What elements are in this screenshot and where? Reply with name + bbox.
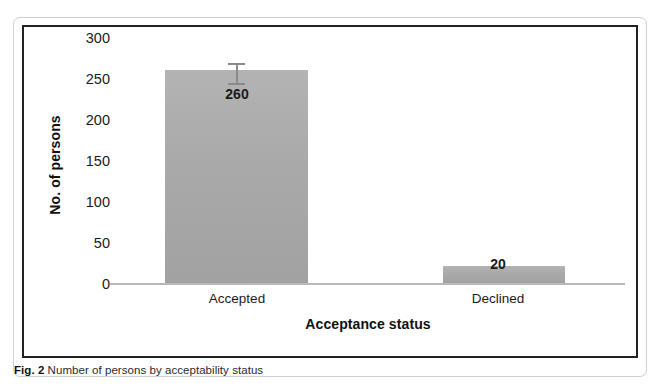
figure-caption: Fig. 2 Number of persons by acceptabilit… [14, 364, 263, 376]
figure-caption-label: Fig. 2 [14, 364, 44, 376]
chart-inner-frame [22, 25, 638, 358]
figure-page: 300 250 200 150 100 50 0 No. of persons … [0, 0, 661, 388]
clipped-top-text [150, 0, 510, 7]
figure-caption-text: Number of persons by acceptability statu… [48, 364, 264, 376]
